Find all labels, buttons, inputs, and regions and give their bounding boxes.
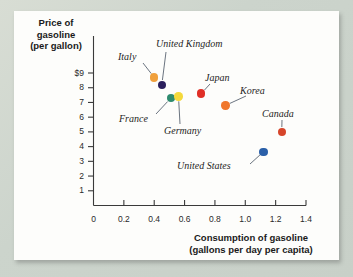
- point-label-korea: Korea: [240, 85, 265, 96]
- leader-line-france: [156, 102, 168, 114]
- y-tick-label: 2: [62, 171, 84, 181]
- x-tick-label: 0.4: [141, 214, 167, 224]
- x-axis-ticks: [124, 200, 306, 206]
- x-tick-label: 0.8: [202, 214, 228, 224]
- x-tick-label: 1.4: [293, 214, 319, 224]
- y-tick-label: $9: [62, 68, 84, 78]
- x-tick-label-zero: 0: [81, 214, 107, 224]
- y-axis-ticks: [88, 73, 94, 191]
- y-tick-label: 7: [62, 97, 84, 107]
- leader-line-japan: [204, 84, 210, 90]
- data-point-united-states[interactable]: [259, 148, 267, 156]
- data-point-canada[interactable]: [278, 128, 286, 136]
- point-label-united-states: United States: [177, 160, 231, 171]
- point-label-italy: Italy: [118, 51, 136, 62]
- leader-line-united-kingdom: [162, 52, 166, 80]
- leader-line-korea: [230, 96, 246, 103]
- y-tick-label: 5: [62, 126, 84, 136]
- y-tick-label: 6: [62, 112, 84, 122]
- x-tick-label: 1.2: [263, 214, 289, 224]
- x-tick-label: 0.2: [111, 214, 137, 224]
- y-tick-label: 3: [62, 156, 84, 166]
- data-point-germany[interactable]: [174, 92, 182, 100]
- y-tick-label: 4: [62, 141, 84, 151]
- point-label-united-kingdom: United Kingdom: [156, 38, 222, 49]
- y-tick-label: 1: [62, 185, 84, 195]
- point-label-france: France: [119, 113, 148, 124]
- y-tick-label: 8: [62, 82, 84, 92]
- x-tick-label: 1.0: [232, 214, 258, 224]
- data-point-korea[interactable]: [221, 101, 229, 109]
- x-tick-label: 0.6: [172, 214, 198, 224]
- point-label-japan: Japan: [205, 72, 229, 83]
- leader-line-italy: [143, 63, 151, 74]
- data-point-italy[interactable]: [150, 73, 158, 81]
- point-label-canada: Canada: [262, 108, 294, 119]
- data-point-united-kingdom[interactable]: [158, 81, 166, 89]
- leader-line-united-states: [250, 155, 260, 164]
- point-label-germany: Germany: [164, 125, 201, 136]
- leader-line-germany: [179, 101, 180, 124]
